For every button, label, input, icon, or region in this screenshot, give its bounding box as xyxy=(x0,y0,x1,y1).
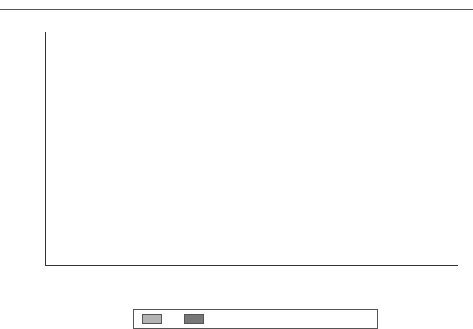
y-axis xyxy=(45,32,46,266)
legend xyxy=(133,309,378,329)
legend-swatch-sdm xyxy=(142,314,162,324)
legend-swatch-comparison xyxy=(184,314,204,324)
legend-item-sdm xyxy=(142,314,170,324)
legend-item-comparison xyxy=(184,314,212,324)
header-rule xyxy=(0,9,473,10)
x-axis xyxy=(45,265,458,266)
